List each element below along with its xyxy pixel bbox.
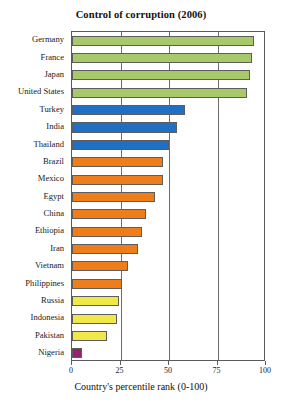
chart-container: Control of corruption (2006) GermanyFran… xyxy=(0,0,282,411)
y-axis-label-indonesia: Indonesia xyxy=(31,313,64,322)
y-axis-label-united-states: United States xyxy=(18,87,64,96)
y-axis-label-turkey: Turkey xyxy=(39,105,64,114)
y-axis-label-thailand: Thailand xyxy=(33,140,64,149)
x-tick-mark-50 xyxy=(168,361,169,365)
bar-row xyxy=(72,314,264,324)
bar-philippines xyxy=(72,279,122,289)
bar-brazil xyxy=(72,157,163,167)
bar-japan xyxy=(72,70,250,80)
x-tick-mark-75 xyxy=(217,361,218,365)
y-axis-label-iran: Iran xyxy=(50,244,64,253)
x-tick-label-50: 50 xyxy=(164,366,172,375)
x-axis-ticks: 0255075100 xyxy=(0,361,282,377)
bar-row xyxy=(72,244,264,254)
bar-row xyxy=(72,261,264,271)
bar-row xyxy=(72,36,264,46)
x-tick-label-75: 75 xyxy=(213,366,221,375)
y-axis-label-nigeria: Nigeria xyxy=(38,348,64,357)
y-axis-category-labels: GermanyFranceJapanUnited StatesTurkeyInd… xyxy=(0,31,68,361)
bar-united-states xyxy=(72,88,247,98)
y-axis-label-vietnam: Vietnam xyxy=(35,261,64,270)
bar-row xyxy=(72,88,264,98)
y-axis-label-russia: Russia xyxy=(41,296,64,305)
plot-area xyxy=(71,31,265,361)
y-axis-label-ethiopia: Ethiopia xyxy=(35,226,64,235)
y-axis-label-pakistan: Pakistan xyxy=(35,331,64,340)
bar-pakistan xyxy=(72,331,107,341)
bar-nigeria xyxy=(72,348,82,358)
bar-row xyxy=(72,157,264,167)
bar-row xyxy=(72,122,264,132)
y-axis-label-france: France xyxy=(41,53,64,62)
bar-france xyxy=(72,53,252,63)
bar-row xyxy=(72,209,264,219)
bar-vietnam xyxy=(72,261,128,271)
y-axis-label-germany: Germany xyxy=(32,35,64,44)
bar-row xyxy=(72,279,264,289)
bar-russia xyxy=(72,296,119,306)
bar-row xyxy=(72,296,264,306)
y-axis-label-egypt: Egypt xyxy=(43,192,64,201)
bar-row xyxy=(72,175,264,185)
x-tick-mark-25 xyxy=(120,361,121,365)
bar-row xyxy=(72,53,264,63)
y-axis-label-china: China xyxy=(43,209,64,218)
bars-layer xyxy=(72,32,264,360)
x-tick-label-25: 25 xyxy=(116,366,124,375)
y-axis-label-india: India xyxy=(46,122,64,131)
bar-row xyxy=(72,192,264,202)
bar-row xyxy=(72,348,264,358)
y-axis-label-brazil: Brazil xyxy=(43,157,64,166)
y-axis-label-japan: Japan xyxy=(44,70,64,79)
bar-mexico xyxy=(72,175,163,185)
bar-row xyxy=(72,70,264,80)
y-axis-label-philippines: Philippines xyxy=(25,279,64,288)
x-axis-title: Country's percentile rank (0-100) xyxy=(0,381,282,392)
bar-row xyxy=(72,331,264,341)
bar-indonesia xyxy=(72,314,117,324)
bar-china xyxy=(72,209,146,219)
bar-iran xyxy=(72,244,138,254)
x-tick-label-0: 0 xyxy=(69,366,73,375)
x-tick-mark-100 xyxy=(265,361,266,365)
y-axis-label-mexico: Mexico xyxy=(38,174,64,183)
bar-germany xyxy=(72,36,254,46)
x-tick-label-100: 100 xyxy=(259,366,271,375)
bar-row xyxy=(72,105,264,115)
x-tick-mark-0 xyxy=(71,361,72,365)
chart-title: Control of corruption (2006) xyxy=(0,9,282,20)
bar-row xyxy=(72,140,264,150)
bar-ethiopia xyxy=(72,227,142,237)
bar-thailand xyxy=(72,140,169,150)
bar-row xyxy=(72,227,264,237)
bar-india xyxy=(72,122,177,132)
bar-turkey xyxy=(72,105,185,115)
bar-egypt xyxy=(72,192,155,202)
